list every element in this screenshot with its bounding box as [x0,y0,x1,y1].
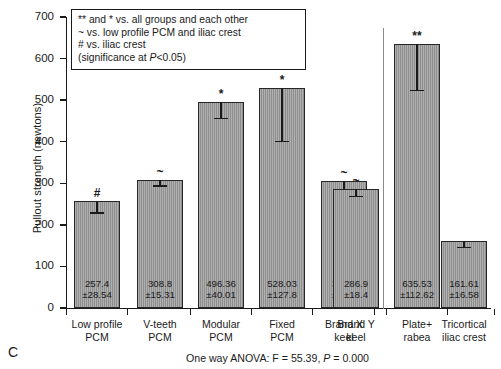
y-axis-tick-label: 400 [8,136,54,147]
anova-footnote: One way ANOVA: F = 55.39, P = 0.000 [186,352,369,364]
y-axis-line [66,17,67,309]
anova-pre: One way ANOVA: F = 55.39, [186,352,323,364]
bar-value-label: 308.8 ±15.31 [135,278,185,300]
y-axis-tick [60,224,66,225]
error-bar-stem [416,44,417,91]
x-axis-tick [66,309,67,315]
bar-value-label: 496.36 ±40.01 [196,278,246,300]
notes-line-2: ~ vs. low profile PCM and iliac crest [78,27,299,40]
chart-figure: Pullout strength (newtons) 7006005004003… [0,0,501,369]
bar-value-label: 286.9 ±18.4 [331,278,381,300]
error-bar-cap [275,141,289,142]
x-axis-tick [386,309,387,315]
notes-line-4-pre: (significance at [78,52,150,63]
y-axis-tick [60,141,66,142]
error-bar-cap [90,212,104,213]
bar-value-label: 257.4 ±28.54 [72,278,122,300]
error-bar-cap [349,196,363,197]
significance-marker: # [82,188,112,198]
y-axis-tick-label: 600 [8,53,54,64]
y-axis-tick [60,266,66,267]
y-axis-tick-label: 500 [8,94,54,105]
x-axis-tick [312,309,313,315]
y-axis-tick-label: 0 [8,302,54,313]
error-bar-cap [410,90,424,91]
significance-marker: ~ [145,167,175,177]
significance-marker: * [267,75,297,85]
error-bar-stem [220,102,221,119]
x-axis-tick [251,309,252,315]
anova-post: = 0.000 [330,352,369,364]
y-axis-tick [60,99,66,100]
notes-line-4: (significance at P<0.05) [78,52,299,65]
error-bar-cap [153,185,167,186]
x-axis-line [66,308,491,309]
y-axis-tick [60,58,66,59]
notes-line-1: ** and * vs. all groups and each other [78,14,299,27]
x-axis-category-label: Tricortical iliac crest [425,318,501,343]
y-axis-tick [60,183,66,184]
x-axis-tick [127,309,128,315]
significance-marker: ~ [341,176,371,186]
bar-value-label: 528.03 ±127.8 [257,278,307,300]
panel-letter: C [8,345,18,359]
significance-marker: * [206,89,236,99]
significance-marker: ** [402,31,432,41]
y-axis-tick-label: 700 [8,11,54,22]
notes-line-4-post: <0.05) [156,52,185,63]
significance-notes-box: ** and * vs. all groups and each other ~… [71,9,306,70]
bar-value-label: 635.53 ±112.62 [392,278,442,300]
y-axis-tick-label: 300 [8,177,54,188]
x-axis-tick [494,309,495,315]
bar-value-label: 161.61 ±16.58 [439,278,489,300]
error-bar-cap [214,118,228,119]
x-axis-tick [447,309,448,315]
y-axis-tick [60,16,66,17]
group-divider-line [383,28,384,309]
error-bar-stem [96,201,97,213]
x-axis-tick [374,309,375,315]
error-bar-cap [457,247,471,248]
x-axis-tick [190,309,191,315]
notes-line-3: # vs. iliac crest [78,39,299,52]
error-bar-stem [281,88,282,141]
y-axis-tick-label: 200 [8,219,54,230]
y-axis-tick-label: 100 [8,260,54,271]
